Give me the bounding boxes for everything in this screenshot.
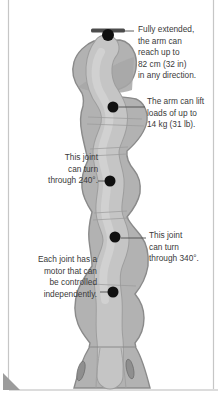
label-joint-240-line: can turn (48, 164, 98, 176)
label-reach-line: 82 cm (32 in) (138, 59, 196, 71)
label-reach-line: reach up to (138, 47, 196, 59)
joint-dot-lift (108, 102, 119, 113)
label-reach-line: in any direction. (138, 70, 196, 82)
joint-dot-motor (108, 287, 119, 298)
label-lift-line: The arm can lift (147, 96, 204, 108)
page-corner-fold (3, 373, 20, 390)
label-joint-340-line: can turn (149, 242, 199, 254)
figure-robot-arm-diagram: Fully extended, the arm can reach up to … (0, 0, 221, 400)
label-motor-line: independently. (38, 289, 97, 301)
joint-dot-gripper (102, 29, 114, 41)
label-reach: Fully extended, the arm can reach up to … (138, 24, 196, 82)
label-joint-340-line: This joint (149, 230, 199, 242)
joint-dot-340 (110, 232, 121, 243)
label-joint-240-line: through 240°. (48, 175, 98, 187)
label-motor-line: motor that can (38, 266, 97, 278)
label-reach-line: the arm can (138, 36, 196, 48)
label-lift-line: 14 kg (31 lb). (147, 119, 204, 131)
label-joint-240-line: This joint (48, 152, 98, 164)
joint-dot-240 (105, 176, 116, 187)
label-lift: The arm can lift loads of up to 14 kg (3… (147, 96, 204, 131)
label-motor-line: be controlled (38, 277, 97, 289)
label-joint-340-line: through 340°. (149, 253, 199, 265)
label-reach-line: Fully extended, (138, 24, 196, 36)
label-lift-line: loads of up to (147, 108, 204, 120)
label-joint-340: This joint can turn through 340°. (149, 230, 199, 265)
label-motor: Each joint has a motor that can be contr… (38, 254, 97, 300)
label-motor-line: Each joint has a (38, 254, 97, 266)
label-joint-240: This joint can turn through 240°. (48, 152, 98, 187)
